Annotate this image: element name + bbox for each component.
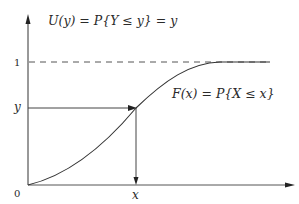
uniform-formula-label: U(y) = P{Y ≤ y} = y: [48, 13, 178, 28]
x-axis-arrow-icon: [285, 183, 295, 188]
inverse-cdf-diagram: U(y) = P{Y ≤ y} = y F(x) = P{X ≤ x} 1 y …: [0, 0, 299, 204]
tick-label-y: y: [13, 100, 21, 114]
cdf-formula-label: F(x) = P{X ≤ x}: [171, 86, 275, 101]
y-axis-arrow-icon: [26, 14, 31, 24]
tick-label-one: 1: [14, 57, 20, 68]
y-axis: [26, 14, 31, 185]
cdf-curve: [28, 62, 270, 185]
x-axis: [28, 183, 295, 188]
vertical-arrow-head-icon: [134, 177, 139, 185]
tick-label-x: x: [132, 188, 139, 202]
origin-label: 0: [14, 188, 20, 199]
